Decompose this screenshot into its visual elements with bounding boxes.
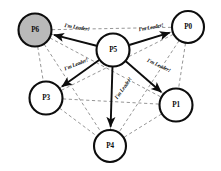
broadcast-edge-p5-to-p0 xyxy=(129,33,169,45)
node-label-p1: P1 xyxy=(172,101,180,109)
node-label-p3: P3 xyxy=(42,94,50,102)
edge-label-p5-to-p1: I'm Leader! xyxy=(145,56,171,73)
node-p1[interactable]: P1 xyxy=(160,89,193,122)
node-label-p6: P6 xyxy=(31,26,39,34)
mesh-edge-p3-p4 xyxy=(60,108,97,136)
mesh-edge-p6-p3 xyxy=(38,47,44,81)
node-p0[interactable]: P0 xyxy=(172,11,204,43)
edge-label-p5-to-p0: I'm Leader! xyxy=(137,22,164,33)
mesh-edge-p1-p4 xyxy=(124,114,162,137)
node-p4[interactable]: P4 xyxy=(94,130,126,162)
node-label-p5: P5 xyxy=(109,46,117,54)
node-label-p4: P4 xyxy=(106,142,114,150)
edge-label-p5-to-p6: I'm Leader! xyxy=(63,22,90,32)
mesh-edge-p0-p1 xyxy=(179,43,186,88)
node-p6[interactable]: P6 xyxy=(19,14,52,47)
node-p3[interactable]: P3 xyxy=(30,82,63,115)
diagram-canvas: P6P0P5P3P1P4 I'm Leader!I'm Leader!I'm L… xyxy=(0,0,221,171)
edge-label-p5-to-p4: I'm Leader! xyxy=(113,76,133,101)
broadcast-edge-p5-to-p6 xyxy=(54,35,96,46)
node-label-p0: P0 xyxy=(184,23,192,31)
leader-election-diagram: P6P0P5P3P1P4 I'm Leader!I'm Leader!I'm L… xyxy=(0,0,221,171)
node-p5[interactable]: P5 xyxy=(97,34,130,67)
